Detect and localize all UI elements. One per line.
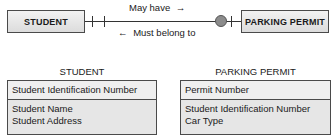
- arrow-right-icon: →: [176, 2, 186, 13]
- student-primary-key: Student Identification Number: [8, 81, 156, 100]
- student-attribute: Student Name: [12, 103, 156, 115]
- student-attributes: Student Name Student Address: [8, 100, 156, 126]
- student-attribute: Student Address: [12, 115, 156, 127]
- entity-parking-permit-label: PARKING PERMIT: [245, 17, 325, 27]
- may-have-label: May have →: [129, 2, 185, 13]
- one-bar-icon-3: [231, 16, 232, 27]
- entity-parking-permit: PARKING PERMIT: [241, 10, 329, 33]
- arrow-left-icon: ←: [118, 27, 128, 38]
- parking-permit-table: Permit Number Student Identification Num…: [180, 80, 331, 135]
- parking-permit-attribute: Car Type: [185, 115, 330, 127]
- parking-permit-primary-key: Permit Number: [181, 81, 330, 100]
- entity-student: STUDENT: [7, 10, 85, 33]
- must-belong-to-label: ← Must belong to: [118, 27, 195, 38]
- parking-permit-attribute: Student Identification Number: [185, 103, 330, 115]
- student-table-title: STUDENT: [7, 66, 157, 77]
- one-bar-icon-1: [92, 16, 93, 27]
- zero-circle-icon: [215, 15, 227, 27]
- student-table: Student Identification Number Student Na…: [7, 80, 157, 135]
- one-bar-icon-2: [104, 16, 105, 27]
- entity-student-label: STUDENT: [24, 17, 68, 27]
- parking-permit-attributes: Student Identification Number Car Type: [181, 100, 330, 126]
- parking-permit-table-title: PARKING PERMIT: [180, 66, 331, 77]
